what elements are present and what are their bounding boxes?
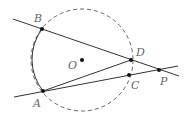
point-P: [157, 68, 161, 72]
arc-BA-solid: [32, 29, 43, 91]
geometry-diagram: B A D C O P: [0, 0, 192, 121]
point-C: [127, 73, 131, 77]
label-B: B: [33, 12, 42, 25]
label-D: D: [135, 46, 145, 59]
point-O: [80, 58, 84, 62]
point-A: [41, 89, 45, 93]
label-A: A: [32, 97, 41, 110]
label-O: O: [68, 59, 77, 72]
label-P: P: [159, 75, 168, 88]
line-BP: [13, 19, 179, 76]
point-D: [129, 58, 133, 62]
label-C: C: [131, 79, 140, 92]
line-AP: [14, 66, 178, 97]
segment-AD: [43, 60, 131, 91]
point-B: [40, 27, 44, 31]
